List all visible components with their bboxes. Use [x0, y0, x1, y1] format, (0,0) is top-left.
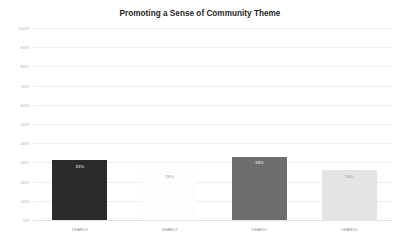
- bar-value-label: 26%: [142, 174, 197, 179]
- x-axis-category-label: DFAR12: [142, 227, 197, 232]
- x-axis-category-label: DFAR11: [232, 227, 287, 232]
- bar-group[interactable]: 26%DFAR12: [142, 28, 197, 220]
- y-axis-tick-label: 60%: [0, 102, 29, 107]
- y-axis-tick-label: 100%: [0, 26, 29, 31]
- chart-title: Promoting a Sense of Community Theme: [0, 9, 400, 19]
- y-axis-tick-label: 20%: [0, 179, 29, 184]
- y-axis-tick-label: 10%: [0, 198, 29, 203]
- y-axis: 100%90%80%70%60%50%40%30%20%10%0%: [0, 28, 29, 220]
- plot-area: 31%DFAR1326%DFAR1233%DFAR1126%DFAR10: [33, 28, 392, 220]
- y-axis-tick-label: 80%: [0, 64, 29, 69]
- y-axis-tick-label: 70%: [0, 83, 29, 88]
- x-axis-category-label: DFAR10: [322, 227, 377, 232]
- bar-group[interactable]: 33%DFAR11: [232, 28, 287, 220]
- bar-group[interactable]: 26%DFAR10: [322, 28, 377, 220]
- y-axis-tick-label: 40%: [0, 141, 29, 146]
- y-axis-tick-label: 0%: [0, 218, 29, 223]
- bar-value-label: 26%: [322, 174, 377, 179]
- bar-chart: Promoting a Sense of Community Theme 100…: [0, 0, 400, 248]
- y-axis-tick-label: 50%: [0, 122, 29, 127]
- y-axis-tick-label: 90%: [0, 45, 29, 50]
- bar-value-label: 31%: [52, 164, 107, 169]
- gridline: [33, 220, 392, 221]
- x-axis-category-label: DFAR13: [52, 227, 107, 232]
- bar[interactable]: [52, 160, 107, 220]
- bar-group[interactable]: 31%DFAR13: [52, 28, 107, 220]
- bar[interactable]: [232, 157, 287, 220]
- y-axis-tick-label: 30%: [0, 160, 29, 165]
- bar-value-label: 33%: [232, 160, 287, 165]
